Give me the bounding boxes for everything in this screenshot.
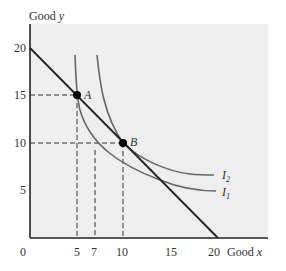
y-tick-10: 10 (14, 136, 26, 150)
plot-area (30, 24, 268, 238)
x-axis-title: Good x (227, 245, 263, 259)
y-tick-20: 20 (14, 41, 26, 55)
point-b-marker (119, 139, 127, 147)
x-tick-10: 10 (116, 245, 128, 259)
point-b-label: B (130, 135, 138, 149)
y-tick-15: 15 (14, 88, 26, 102)
x-tick-20: 20 (208, 245, 220, 259)
point-a-label: A (83, 88, 92, 102)
y-axis-title: Good y (29, 9, 65, 23)
y-tick-5: 5 (20, 183, 26, 197)
x-tick-5: 5 (74, 245, 80, 259)
indifference-curve-chart: A B I2 I1 Good y Good x 20 15 10 5 0 5 7… (0, 0, 286, 271)
x-tick-7: 7 (91, 245, 97, 259)
point-a-marker (73, 91, 81, 99)
x-tick-15: 15 (165, 245, 177, 259)
x-tick-0: 0 (20, 245, 26, 259)
